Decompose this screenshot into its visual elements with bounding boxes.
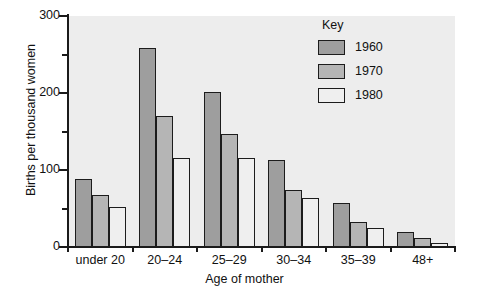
bar-1960-25-29 (204, 92, 221, 247)
legend-rows: 196019701980 (318, 37, 438, 105)
bar-1970-35-39 (350, 222, 367, 247)
x-tick-3 (261, 246, 263, 252)
legend-item-1960: 1960 (318, 37, 438, 57)
x-tick-1 (132, 246, 134, 252)
bar-1970-48- (414, 238, 431, 247)
legend-label-1970: 1970 (355, 65, 383, 78)
bar-chart: 0100200300 Births per thousand women und… (0, 0, 489, 289)
bar-1980-48- (431, 243, 448, 247)
x-tick-0 (67, 246, 69, 252)
y-axis-title: Births per thousand women (24, 30, 38, 210)
x-tick-2 (196, 246, 198, 252)
bar-1980-35-39 (367, 228, 384, 247)
bar-1960-48- (397, 232, 414, 247)
bar-1980-under-20 (109, 207, 126, 247)
x-axis-title: Age of mother (0, 272, 489, 286)
y-tick-major-100 (59, 169, 68, 171)
legend-label-1980: 1980 (355, 89, 383, 102)
bar-1970-20-24 (156, 116, 173, 247)
y-tick-minor-250 (62, 54, 68, 56)
x-tick-4 (325, 246, 327, 252)
legend-item-1980: 1980 (318, 85, 438, 105)
bar-1980-25-29 (238, 158, 255, 247)
y-tick-minor-150 (62, 131, 68, 133)
bar-1960-under-20 (75, 179, 92, 247)
bar-1980-30-34 (302, 198, 319, 247)
y-tick-minor-50 (62, 208, 68, 210)
legend-swatch-1970 (318, 64, 345, 79)
bar-1970-25-29 (221, 134, 238, 247)
y-tick-label-0: 0 (0, 240, 60, 253)
legend-swatch-1960 (318, 40, 345, 55)
bar-1970-under-20 (92, 195, 109, 247)
bar-1970-30-34 (285, 190, 302, 247)
x-tick-5 (390, 246, 392, 252)
legend-swatch-1980 (318, 88, 345, 103)
bar-1960-35-39 (333, 203, 350, 247)
x-group-label-5: 48+ (379, 253, 468, 267)
legend-title: Key (322, 18, 438, 32)
bar-1980-20-24 (173, 158, 190, 247)
legend: Key 196019701980 (318, 18, 438, 109)
bar-1960-30-34 (268, 160, 285, 247)
y-tick-major-200 (59, 92, 68, 94)
legend-item-1970: 1970 (318, 61, 438, 81)
bar-1960-20-24 (139, 48, 156, 247)
x-tick-end (454, 246, 456, 252)
y-tick-label-300: 300 (0, 9, 60, 22)
legend-label-1960: 1960 (355, 41, 383, 54)
y-tick-major-300 (59, 15, 68, 17)
